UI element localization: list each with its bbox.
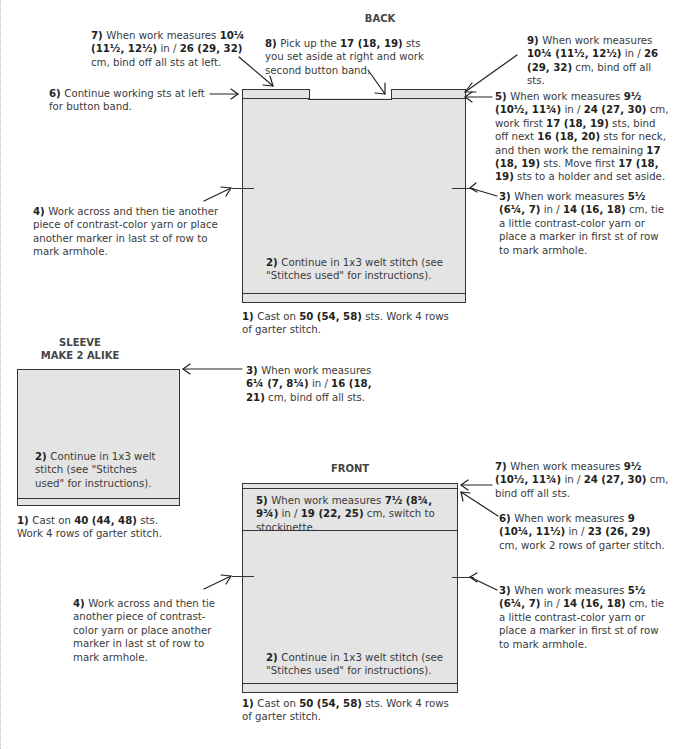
step-text: Continue working sts at left for button … [49,88,205,112]
back-step-8: 8) Pick up the 17 (18, 19) sts you set a… [265,37,425,77]
back-left-band [242,89,310,99]
step-number: 6) [49,88,64,99]
step-number: 2) [266,652,281,663]
front-step-3: 3) When work measures 5½ (6¼, 7) in / 14… [499,584,669,651]
sleeve-garter-line [18,498,179,499]
front-garter-line [243,683,457,684]
sleeve-subtitle: MAKE 2 ALIKE [20,349,140,362]
step-text: When work measures [514,513,627,524]
step-text: Continue in 1x3 welt stitch (see "Stitch… [266,652,443,676]
step-text: in / [540,598,562,609]
front-garter-top-line [243,488,457,489]
step-text: in / [561,474,583,485]
sleeve-step-3: 3) When work measures 6¼ (7, 8¼) in / 16… [246,364,376,404]
step-text: cm, work 2 rows of garter stitch. [499,540,665,551]
sleeve-step-1: 1) Cast on 40 (44, 48) sts. Work 4 rows … [17,514,177,541]
step-text: Cast on [257,698,299,709]
step-number: 7) [495,461,510,472]
step-number: 4) [73,598,88,609]
page-edge [0,0,2,749]
step-text: Work across and then tie another piece o… [73,598,215,663]
step-text: in / [309,378,331,389]
front-step-6: 6) When work measures 9 (10¼, 11½) in / … [499,512,669,552]
step-text: Pick up the [280,38,340,49]
step-number: 5) [256,495,271,506]
measurement-value: 16 (18, 20) [537,131,600,142]
arrow-front-4 [204,575,231,589]
step-text: Work across and then tie another piece o… [33,206,218,257]
step-text: in / [561,104,583,115]
front-step-2: 2) Continue in 1x3 welt stitch (see "Sti… [266,651,456,678]
arrow-front-7 [461,480,492,490]
arrow-back-9 [465,55,517,92]
step-text: When work measures [261,365,371,376]
arrow-front-3 [470,573,497,590]
step-text: Continue in 1x3 welt stitch (see "Stitch… [266,257,443,281]
back-step-4: 4) Work across and then tie another piec… [33,205,228,259]
step-text: sts. Move first [540,158,618,169]
step-text: in / [540,204,562,215]
step-number: 2) [35,451,50,462]
back-step-2: 2) Continue in 1x3 welt stitch (see "Sti… [266,256,456,283]
back-step-6: 6) Continue working sts at left for butt… [49,87,219,114]
step-number: 8) [265,38,280,49]
measurement-value: 17 (18, 19) [340,38,403,49]
step-text: cm, bind off all sts. [265,392,365,403]
front-right-marker [452,577,474,578]
back-right-marker [452,188,474,189]
measurement-value: 14 (16, 18) [563,598,626,609]
measurement-value: 40 (44, 48) [74,515,137,526]
measurement-value: 26 (29, 32) [180,43,243,54]
back-neck-edge [308,99,392,100]
step-text: in / [278,508,300,519]
sleeve-step-2: 2) Continue in 1x3 welt stitch (see "Sti… [35,450,165,490]
step-text: sts to a holder and set aside. [514,171,665,182]
step-number: 5) [495,91,510,102]
step-number: 1) [242,311,257,322]
step-text: When work measures [542,35,652,46]
back-garter-line [243,293,465,294]
measurement-value: 24 (27, 30) [584,474,647,485]
measurement-value: 19 (22, 25) [301,508,364,519]
front-step-7: 7) When work measures 9½ (10½, 11¾) in /… [495,460,671,500]
front-step-1: 1) Cast on 50 (54, 58) sts. Work 4 rows … [242,697,452,724]
back-step-7: 7) When work measures 10¼ (11½, 12½) in … [91,29,261,69]
step-number: 7) [91,30,106,41]
measurement-value: 50 (54, 58) [299,698,362,709]
front-left-marker [232,576,254,577]
step-text: When work measures [106,30,219,41]
step-number: 1) [17,515,32,526]
step-number: 3) [499,585,514,596]
step-text: When work measures [510,461,623,472]
back-step-1: 1) Cast on 50 (54, 58) sts. Work 4 rows … [242,310,452,337]
back-step-9: 9) When work measures 10¼ (11½, 12½) in … [527,34,667,88]
step-number: 4) [33,206,48,217]
step-text: When work measures [510,91,623,102]
step-number: 9) [527,35,542,46]
measurement-value: 10¼ (11½, 12½) [527,48,621,59]
step-number: 3) [499,191,514,202]
step-text: in / [621,48,643,59]
step-number: 1) [242,698,257,709]
arrow-back-3 [470,183,497,196]
arrow-front-6 [461,492,498,516]
measurement-value: 14 (16, 18) [563,204,626,215]
step-text: When work measures [514,191,627,202]
step-text: in / [157,43,179,54]
step-text: When work measures [514,585,627,596]
step-number: 6) [499,513,514,524]
step-text: in / [565,526,587,537]
step-text: cm, bind off all sts at left. [91,57,221,68]
step-text: When work measures [271,495,384,506]
back-step-3: 3) When work measures 5½ (6¼, 7) in / 14… [499,190,669,257]
sleeve-title: SLEEVE [20,336,140,349]
back-neck-gap [309,95,392,98]
arrow-back-5 [465,92,492,102]
front-step-5: 5) When work measures 7½ (8¾, 9¾) in / 1… [256,494,452,534]
measurement-value: 6¼ (7, 8¼) [246,378,309,389]
measurement-value: 23 (26, 29) [588,526,651,537]
step-number: 3) [246,365,261,376]
measurement-value: 50 (54, 58) [299,311,362,322]
back-title: BACK [300,12,460,25]
step-text: Cast on [32,515,74,526]
